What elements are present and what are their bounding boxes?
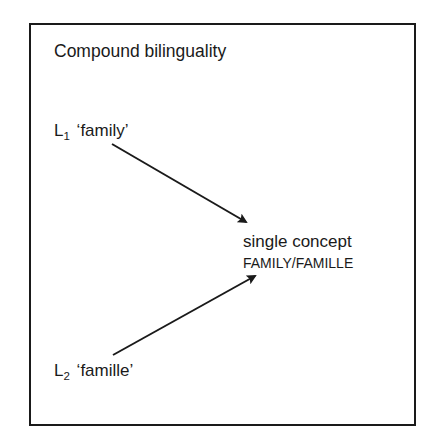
arrow-l2-to-concept — [113, 276, 255, 355]
arrow-l1-to-concept — [112, 144, 246, 222]
arrows-layer — [0, 0, 432, 446]
